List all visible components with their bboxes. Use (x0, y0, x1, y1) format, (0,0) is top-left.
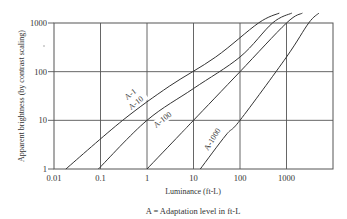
curve-label-a-1000: A-1000 (202, 127, 223, 153)
y-tick-label: 10 (39, 115, 48, 125)
y-axis-label: Apparent brightness (by contrast scaling… (17, 30, 26, 162)
x-tick-label: 0.1 (95, 173, 106, 183)
curve-label-a-100: A-100 (152, 110, 174, 130)
x-tick-label: 1000 (278, 173, 295, 183)
x-tick-label: 100 (234, 173, 247, 183)
x-tick-label: 0.01 (47, 173, 62, 183)
y-tick-label: 1 (43, 164, 47, 174)
x-tick-label: 10 (189, 173, 198, 183)
brightness-luminance-chart: A-1A-10A-100A-1000 0.010.111010010001101… (0, 0, 347, 219)
curve-a-100 (147, 13, 302, 169)
y-tick-label: 1000 (30, 18, 47, 28)
stray-mark (43, 45, 44, 46)
adaptation-curves: A-1A-10A-100A-1000 (66, 13, 319, 169)
chart-caption: A = Adaptation level in ft-L (146, 206, 241, 216)
y-tick-label: 100 (34, 67, 47, 77)
x-axis-label: Luminance (ft-L) (165, 187, 221, 196)
curve-a-1 (66, 13, 279, 169)
x-tick-label: 1 (145, 173, 149, 183)
